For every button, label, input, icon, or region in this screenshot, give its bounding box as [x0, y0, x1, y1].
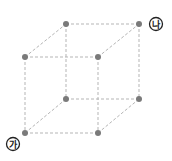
edge [25, 24, 66, 57]
label-na-text: 나 [152, 19, 161, 30]
vertex-back-top-right [136, 21, 142, 27]
vertex-front-top-right [95, 54, 101, 60]
vertex-back-bottom-right [136, 96, 142, 102]
edge [98, 24, 139, 57]
cube-diagram: 나 가 [0, 0, 172, 161]
label-ga: 가 [7, 138, 20, 151]
vertex-front-bottom-right [95, 130, 101, 136]
vertex-back-top-left [63, 21, 69, 27]
vertex-front-bottom-left [22, 130, 28, 136]
edge [98, 99, 139, 133]
edge [25, 99, 66, 133]
vertex-front-top-left [22, 54, 28, 60]
vertex-back-bottom-left [63, 96, 69, 102]
label-na: 나 [150, 18, 163, 31]
label-ga-text: 가 [9, 139, 18, 150]
